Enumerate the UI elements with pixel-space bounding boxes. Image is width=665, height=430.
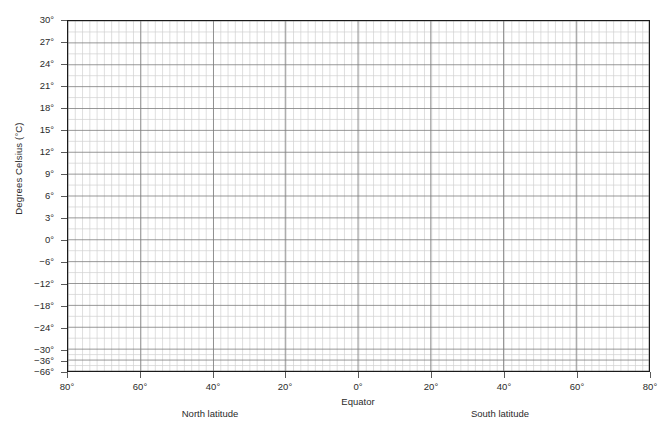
x-axis-tick-label: 40° (474, 381, 534, 392)
y-axis-tick-label: 0° (8, 235, 54, 245)
x-axis-tick-mark (67, 372, 68, 378)
y-axis-tick-mark (61, 306, 67, 307)
y-axis-tick-mark (61, 130, 67, 131)
y-axis-tick-mark (61, 350, 67, 351)
y-axis-tick-mark (61, 108, 67, 109)
x-axis-tick-label: 0° (328, 381, 388, 392)
x-axis-tick-label: 40° (183, 381, 243, 392)
x-axis-tick-mark (504, 372, 505, 378)
x-axis-tick-label: 80° (620, 381, 665, 392)
plot-area (67, 20, 650, 372)
y-axis-tick-label: 27° (8, 37, 54, 47)
x-axis-tick-mark (213, 372, 214, 378)
y-axis-tick-mark (61, 20, 67, 21)
x-axis-tick-mark (140, 372, 141, 378)
y-axis-tick-label: 9° (8, 169, 54, 179)
y-axis-tick-label: 30° (8, 15, 54, 25)
y-axis-tick-mark (61, 64, 67, 65)
y-axis-tick-mark (61, 196, 67, 197)
x-axis-tick-label: 80° (37, 381, 97, 392)
x-axis-tick-label: 20° (255, 381, 315, 392)
x-axis-tick-label: 60° (110, 381, 170, 392)
y-axis-tick-mark (61, 361, 67, 362)
y-axis-tick-label: 18° (8, 103, 54, 113)
y-axis-tick-label: −12° (8, 279, 54, 289)
grid-lines (68, 21, 649, 371)
y-axis-tick-label: −36° (8, 356, 54, 366)
y-axis-tick-mark (61, 218, 67, 219)
y-axis-tick-mark (61, 86, 67, 87)
x-axis-tick-mark (285, 372, 286, 378)
y-axis-tick-label: −66° (8, 367, 54, 377)
y-axis-tick-label: −6° (8, 257, 54, 267)
y-axis-tick-label: −30° (8, 345, 54, 355)
y-axis-tick-mark (61, 262, 67, 263)
y-axis-tick-label: 15° (8, 125, 54, 135)
x-axis-tick-label: 20° (401, 381, 461, 392)
y-axis-tick-mark (61, 284, 67, 285)
x-axis-tick-mark (358, 372, 359, 378)
chart-container: Degrees Celsius (°C) 30°27°24°21°18°15°1… (0, 0, 665, 430)
x-axis-tick-mark (431, 372, 432, 378)
y-axis-tick-label: 24° (8, 59, 54, 69)
x-axis-south-latitude-label: South latitude (440, 408, 560, 419)
y-axis-tick-mark (61, 174, 67, 175)
y-axis-tick-label: −18° (8, 301, 54, 311)
x-axis-north-latitude-label: North latitude (150, 408, 270, 419)
y-axis-tick-mark (61, 42, 67, 43)
y-axis-tick-label: 21° (8, 81, 54, 91)
y-axis-tick-label: 3° (8, 213, 54, 223)
x-axis-tick-mark (577, 372, 578, 378)
y-axis-tick-label: −24° (8, 323, 54, 333)
x-axis-equator-label: Equator (328, 396, 388, 407)
x-axis-tick-label: 60° (547, 381, 607, 392)
y-axis-tick-mark (61, 152, 67, 153)
x-axis-tick-mark (650, 372, 651, 378)
y-axis-tick-mark (61, 328, 67, 329)
y-axis-tick-mark (61, 240, 67, 241)
y-axis-tick-label: 6° (8, 191, 54, 201)
y-axis-tick-label: 12° (8, 147, 54, 157)
